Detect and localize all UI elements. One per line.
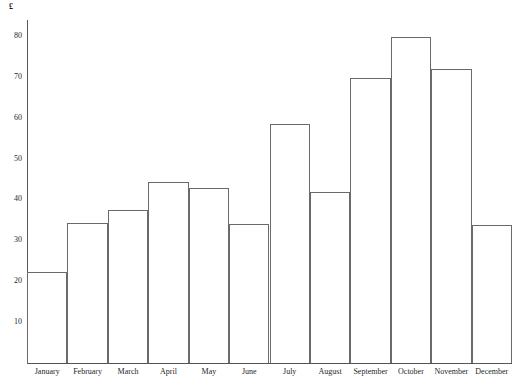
bar [108,210,148,363]
x-tick-label: March [108,368,148,376]
y-tick-label: 60 [0,114,22,122]
y-tick-label: 80 [0,32,22,40]
bar [148,182,188,363]
x-axis-line [27,363,512,364]
bar [189,188,229,363]
x-tick-label: January [27,368,67,376]
y-tick-label: 30 [0,236,22,244]
x-tick-label: November [431,368,471,376]
bar [391,37,431,363]
x-tick-label: September [350,368,390,376]
x-tick-label: February [67,368,107,376]
x-tick-label: May [189,368,229,376]
x-tick-label: October [391,368,431,376]
y-axis-currency-label: £ [9,3,13,11]
y-tick-label: 10 [0,318,22,326]
bar-chart: £ 8070605040302010 JanuaryFebruaryMarchA… [0,0,522,383]
x-tick-label: December [472,368,512,376]
x-tick-label: July [270,368,310,376]
bar [472,225,512,363]
bar [229,224,269,363]
bar [310,192,350,363]
bar [27,272,67,363]
bar [350,78,390,363]
bar [431,69,471,363]
y-tick-label: 50 [0,155,22,163]
plot-area [27,20,512,363]
x-tick-label: August [310,368,350,376]
x-tick-label: April [148,368,188,376]
bar [270,124,310,363]
y-tick-label: 20 [0,277,22,285]
y-tick-label: 40 [0,195,22,203]
bar [67,223,107,363]
y-tick-label: 70 [0,73,22,81]
x-tick-label: June [229,368,269,376]
